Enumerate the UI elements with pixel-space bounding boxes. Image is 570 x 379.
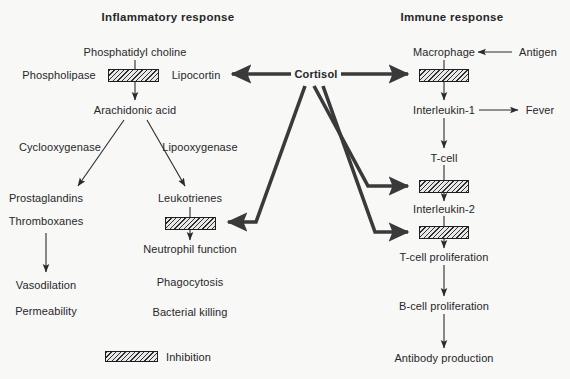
diagram-canvas: Inflammatory response Immune response Ph… [0, 0, 570, 379]
node-interleukin-2: Interleukin-2 [413, 203, 475, 215]
inflammatory-arrows [46, 60, 190, 272]
inhibition-box-t-cell [419, 180, 469, 193]
inhibition-box-interleukin-2 [419, 226, 469, 239]
inhibition-box-phospholipase [108, 69, 159, 82]
node-lipooxygenase: Lipooxygenase [162, 141, 237, 153]
node-permeability: Permeability [15, 305, 77, 317]
node-t-cell: T-cell [431, 152, 458, 164]
legend-inhibition-swatch [105, 351, 158, 362]
node-leukotrienes: Leukotrienes [158, 192, 222, 204]
node-cyclooxygenase: Cyclooxygenase [19, 141, 101, 153]
heading-inflammatory-response: Inflammatory response [102, 11, 235, 23]
thick-arrow-cortisol-to-leukotrienes-box [228, 86, 305, 222]
legend-inhibition-label: Inhibition [166, 351, 211, 363]
node-phospholipase: Phospholipase [22, 69, 95, 81]
node-t-cell-proliferation: T-cell proliferation [400, 251, 489, 263]
node-cortisol: Cortisol [294, 68, 337, 80]
node-prostaglandins: Prostaglandins [9, 192, 83, 204]
node-antigen: Antigen [519, 46, 557, 58]
node-thromboxanes: Thromboxanes [9, 215, 84, 227]
inhibition-box-leukotrienes [165, 217, 216, 230]
node-interleukin-1: Interleukin-1 [413, 104, 475, 116]
node-b-cell-proliferation: B-cell proliferation [399, 300, 489, 312]
node-fever: Fever [526, 104, 555, 116]
node-lipocortin: Lipocortin [172, 69, 221, 81]
cortisol-thick-arrows [228, 74, 408, 232]
heading-immune-response: Immune response [401, 11, 504, 23]
thick-arrow-cortisol-to-interleukin2-box [323, 86, 408, 232]
inhibition-box-macrophage [419, 69, 469, 82]
arrow-arachidonic-to-prostaglandins [78, 120, 124, 186]
node-antibody-production: Antibody production [394, 352, 493, 364]
node-arachidonic-acid: Arachidonic acid [94, 104, 176, 116]
node-neutrophil-function: Neutrophil function [143, 243, 237, 255]
arrow-arachidonic-to-leukotrienes [147, 120, 185, 186]
node-macrophage: Macrophage [413, 46, 475, 58]
node-vasodilation: Vasodilation [16, 279, 76, 291]
node-phosphatidyl-choline: Phosphatidyl choline [84, 46, 187, 58]
node-bacterial-killing: Bacterial killing [152, 306, 227, 318]
node-phagocytosis: Phagocytosis [157, 276, 224, 288]
